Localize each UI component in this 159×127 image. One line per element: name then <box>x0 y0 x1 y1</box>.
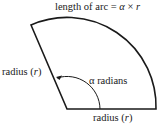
times-symbol: × <box>125 1 136 12</box>
angle-label: α radians <box>89 76 127 87</box>
label-text: radius ( <box>93 112 125 123</box>
bottom-radius-label: radius (r) <box>93 113 132 124</box>
sector-outline <box>31 17 156 109</box>
label-text: ) <box>38 66 42 77</box>
arc-length-title: length of arc = α × r <box>55 2 140 13</box>
left-radius-label: radius (r) <box>2 67 41 78</box>
title-prefix: length of arc = <box>55 1 119 12</box>
label-text: ) <box>129 112 133 123</box>
label-text: radius ( <box>2 66 34 77</box>
arrowhead-icon <box>56 76 62 81</box>
r-symbol: r <box>136 1 140 12</box>
sector-diagram <box>0 0 159 127</box>
